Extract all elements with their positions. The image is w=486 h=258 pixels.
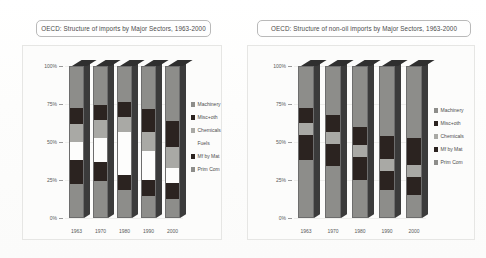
- bar-segment: [326, 67, 340, 115]
- y-axis-tick-label: 100%: [264, 63, 292, 69]
- bar-1970: [93, 66, 108, 218]
- legend-swatch: [191, 167, 195, 172]
- bar-segment: [94, 105, 107, 120]
- bar-side-face: [395, 62, 401, 218]
- bar-front-face: [165, 66, 180, 218]
- x-axis-tick-label: 1970: [87, 228, 114, 234]
- bar-segment: [380, 171, 394, 191]
- y-axis-tick-label: 50%: [35, 139, 63, 145]
- bar-side-face: [368, 62, 374, 218]
- chart-legend: MachineryMisc+othChemicalsMf by MatPrim …: [434, 104, 464, 169]
- legend-label: Misc+oth: [198, 115, 218, 120]
- x-axis-tick-label: 1980: [346, 228, 374, 234]
- x-axis-tick-label: 1963: [292, 228, 320, 234]
- bar-segment: [166, 67, 179, 121]
- legend-item: Mf by Mat: [191, 150, 221, 163]
- bar-segment: [118, 175, 131, 190]
- plot-area-non-oil-imports: 0%25%50%75%100%19631970198019902000Machi…: [248, 46, 474, 239]
- bar-segment: [353, 127, 367, 145]
- bar-front-face: [406, 66, 422, 218]
- bar-segment: [142, 109, 155, 132]
- bar-segment: [380, 190, 394, 217]
- bar-1963: [69, 66, 84, 218]
- legend-item: Chemicals: [434, 130, 464, 143]
- bar-segment: [166, 183, 179, 200]
- legend-item: Fuels: [191, 137, 221, 150]
- bar-segment: [166, 121, 179, 147]
- chart-title-box-non-oil-imports: OECD: Structure of non-oil imports by Ma…: [257, 20, 471, 37]
- bar-side-face: [84, 62, 90, 218]
- bar-segment: [70, 184, 83, 217]
- legend-label: Prim Com: [198, 167, 220, 172]
- bar-segment: [353, 67, 367, 127]
- legend-swatch: [191, 102, 195, 107]
- bar-segment: [380, 159, 394, 171]
- bar-segment: [353, 157, 367, 180]
- bar-segment: [118, 102, 131, 117]
- legend-swatch: [191, 128, 195, 133]
- bar-side-face: [108, 62, 114, 218]
- bar-segment: [166, 147, 179, 168]
- bar-segment: [70, 108, 83, 125]
- legend-item: Mf by Mat: [434, 143, 464, 156]
- legend-label: Chemicals: [198, 128, 221, 133]
- legend-label: Prim Com: [441, 160, 463, 165]
- plot-frame-imports: 0%25%50%75%100%19631970198019902000Machi…: [22, 45, 222, 240]
- y-axis-tick-label: 25%: [264, 177, 292, 183]
- legend-swatch: [434, 147, 438, 152]
- bar-segment: [407, 195, 421, 218]
- bar-segment: [70, 142, 83, 160]
- bar-1963: [298, 66, 314, 218]
- legend-item: Misc+oth: [191, 111, 221, 124]
- y-axis-tick-label: 75%: [35, 101, 63, 107]
- bar-side-face: [156, 62, 162, 218]
- bar-1980: [117, 66, 132, 218]
- bar-segment: [94, 120, 107, 138]
- bar-2000: [406, 66, 422, 218]
- bar-front-face: [93, 66, 108, 218]
- bar-segment: [407, 138, 421, 165]
- chart-title-imports: OECD: Structure of imports by Major Sect…: [41, 25, 206, 32]
- bar-front-face: [69, 66, 84, 218]
- y-axis-tick-label: 0%: [35, 215, 63, 221]
- bar-segment: [142, 67, 155, 109]
- plot-frame-non-oil-imports: 0%25%50%75%100%19631970198019902000Machi…: [247, 45, 475, 240]
- legend-swatch: [191, 154, 195, 159]
- y-axis-tick-label: 25%: [35, 177, 63, 183]
- bar-front-face: [352, 66, 368, 218]
- gridline: [65, 218, 183, 219]
- bar-1980: [352, 66, 368, 218]
- bar-segment: [70, 67, 83, 108]
- x-axis-tick-label: 1990: [373, 228, 401, 234]
- chart-title-box-imports: OECD: Structure of imports by Major Sect…: [36, 20, 211, 37]
- bar-front-face: [141, 66, 156, 218]
- bar-segment: [94, 181, 107, 217]
- bar-segment: [94, 162, 107, 182]
- bar-segment: [326, 166, 340, 217]
- bar-segment: [142, 180, 155, 197]
- y-axis-tick-label: 75%: [264, 101, 292, 107]
- legend-swatch: [434, 134, 438, 139]
- legend-label: Chemicals: [441, 134, 464, 139]
- bar-segment: [118, 190, 131, 217]
- legend-swatch: [191, 141, 195, 146]
- x-axis-tick-label: 2000: [400, 228, 428, 234]
- legend-label: Mf by Mat: [198, 154, 220, 159]
- gridline: [294, 218, 426, 219]
- bar-segment: [118, 117, 131, 132]
- bar-segment: [118, 67, 131, 102]
- bar-front-face: [379, 66, 395, 218]
- bar-1970: [325, 66, 341, 218]
- chart-panel-imports: OECD: Structure of imports by Major Sect…: [0, 0, 243, 258]
- bar-segment: [353, 180, 367, 218]
- legend-label: Machinery: [441, 108, 464, 113]
- bar-front-face: [325, 66, 341, 218]
- legend-label: Mf by Mat: [441, 147, 463, 152]
- bar-segment: [70, 160, 83, 184]
- bar-side-face: [422, 62, 428, 218]
- chart-legend: MachineryMisc+othChemicalsFuelsMf by Mat…: [191, 98, 221, 176]
- bar-segment: [299, 108, 313, 123]
- bar-1990: [141, 66, 156, 218]
- chart-title-non-oil-imports: OECD: Structure of non-oil imports by Ma…: [271, 25, 457, 32]
- bar-segment: [299, 67, 313, 108]
